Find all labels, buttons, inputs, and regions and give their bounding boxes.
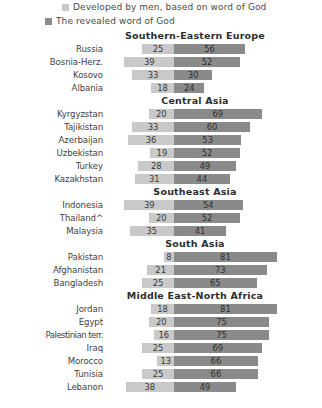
bar-developed-by-men: 28 <box>138 161 174 171</box>
section-header: Central Asia <box>161 95 228 106</box>
country-label: Bangladesh <box>0 277 103 289</box>
bar-developed-by-men: 39 <box>124 57 174 67</box>
bar-revealed-word: 54 <box>174 200 243 210</box>
bar-developed-by-men: 19 <box>150 148 174 158</box>
chart-row: Russia2556 <box>0 43 322 55</box>
bar-value-developed-by-men: 25 <box>142 369 174 379</box>
bar-value-revealed-word: 52 <box>174 213 240 223</box>
bar-revealed-word: 75 <box>174 317 269 327</box>
bar-value-developed-by-men: 20 <box>149 213 174 223</box>
bar-revealed-word: 66 <box>174 369 258 379</box>
country-label: Tajikistan <box>0 121 103 133</box>
bar-value-developed-by-men: 38 <box>126 382 174 392</box>
bar-developed-by-men: 33 <box>132 122 174 132</box>
bar-revealed-word: 24 <box>174 83 204 93</box>
legend-item-revealed-word: The revealed word of God <box>0 14 322 28</box>
bar-revealed-word: 66 <box>174 356 258 366</box>
bar-revealed-word: 44 <box>174 174 230 184</box>
bar-developed-by-men: 20 <box>149 109 174 119</box>
bar-value-developed-by-men: 39 <box>124 200 174 210</box>
bar-value-developed-by-men: 25 <box>142 343 174 353</box>
chart-row: Egypt2075 <box>0 316 322 328</box>
chart-row: Albania1824 <box>0 82 322 94</box>
bar-developed-by-men: 8 <box>164 252 174 262</box>
bar-revealed-word: 52 <box>174 213 240 223</box>
chart-row: Iraq2569 <box>0 342 322 354</box>
bar-revealed-word: 69 <box>174 109 262 119</box>
bar-value-revealed-word: 44 <box>174 174 230 184</box>
bar-value-developed-by-men: 13 <box>157 356 174 366</box>
chart-row: Azerbaijan3653 <box>0 134 322 146</box>
bar-revealed-word: 52 <box>174 57 240 67</box>
chart-row: Bosnia-Herz.3952 <box>0 56 322 68</box>
country-label: Palestinian terr. <box>0 329 103 341</box>
bar-developed-by-men: 35 <box>130 226 174 236</box>
bar-revealed-word: 73 <box>174 265 267 275</box>
bar-developed-by-men: 18 <box>151 83 174 93</box>
bar-value-revealed-word: 69 <box>174 343 262 353</box>
bar-revealed-word: 60 <box>174 122 250 132</box>
bar-value-revealed-word: 52 <box>174 57 240 67</box>
chart-row: Turkey2849 <box>0 160 322 172</box>
bar-developed-by-men: 20 <box>149 317 174 327</box>
bar-developed-by-men: 18 <box>151 304 174 314</box>
country-label: Albania <box>0 82 103 94</box>
legend-label-developed-by-men: Developed by men, based on word of God <box>73 2 266 12</box>
section-header: Southeast Asia <box>153 186 236 197</box>
bar-value-revealed-word: 52 <box>174 148 240 158</box>
legend-swatch-developed-by-men <box>62 4 69 11</box>
bar-value-developed-by-men: 35 <box>130 226 174 236</box>
bar-revealed-word: 65 <box>174 278 257 288</box>
country-label: Kosovo <box>0 69 103 81</box>
bar-value-revealed-word: 69 <box>174 109 262 119</box>
bar-value-revealed-word: 66 <box>174 369 258 379</box>
bar-revealed-word: 49 <box>174 161 236 171</box>
bar-value-revealed-word: 56 <box>174 44 245 54</box>
country-label: Kyrgyzstan <box>0 108 103 120</box>
bar-developed-by-men: 25 <box>142 343 174 353</box>
chart-row: Thailand^2052 <box>0 212 322 224</box>
bar-value-developed-by-men: 33 <box>132 70 174 80</box>
bar-value-developed-by-men: 28 <box>138 161 174 171</box>
bar-developed-by-men: 16 <box>154 330 174 340</box>
chart-row: Kazakhstan3144 <box>0 173 322 185</box>
bar-value-revealed-word: 49 <box>174 161 236 171</box>
bar-developed-by-men: 25 <box>142 278 174 288</box>
bar-value-developed-by-men: 36 <box>128 135 174 145</box>
legend-item-developed-by-men: Developed by men, based on word of God <box>0 0 322 14</box>
section-header: Southern-Eastern Europe <box>125 30 265 41</box>
section-header: South Asia <box>165 238 224 249</box>
chart-legend: Developed by men, based on word of God T… <box>0 0 322 28</box>
bar-revealed-word: 52 <box>174 148 240 158</box>
bar-revealed-word: 81 <box>174 304 277 314</box>
country-label: Iraq <box>0 342 103 354</box>
country-label: Russia <box>0 43 103 55</box>
chart-row: Tajikistan3360 <box>0 121 322 133</box>
country-label: Kazakhstan <box>0 173 103 185</box>
country-label: Morocco <box>0 355 103 367</box>
bar-revealed-word: 75 <box>174 330 269 340</box>
chart-container: Developed by men, based on word of God T… <box>0 0 322 408</box>
bar-revealed-word: 53 <box>174 135 241 145</box>
bar-value-revealed-word: 24 <box>174 83 204 93</box>
bar-value-developed-by-men: 18 <box>151 83 174 93</box>
chart-row: Afghanistan2173 <box>0 264 322 276</box>
bar-value-revealed-word: 53 <box>174 135 241 145</box>
legend-swatch-revealed-word <box>45 18 52 25</box>
bar-revealed-word: 69 <box>174 343 262 353</box>
bar-developed-by-men: 25 <box>142 44 174 54</box>
bar-value-revealed-word: 49 <box>174 382 236 392</box>
bar-developed-by-men: 39 <box>124 200 174 210</box>
bar-developed-by-men: 33 <box>132 70 174 80</box>
bar-value-revealed-word: 81 <box>174 252 277 262</box>
bar-value-revealed-word: 30 <box>174 70 212 80</box>
chart-row: Kosovo3330 <box>0 69 322 81</box>
chart-row: Pakistan881 <box>0 251 322 263</box>
bar-revealed-word: 49 <box>174 382 236 392</box>
country-label: Pakistan <box>0 251 103 263</box>
bar-developed-by-men: 31 <box>135 174 174 184</box>
bar-value-developed-by-men: 18 <box>151 304 174 314</box>
chart-row: Uzbekistan1952 <box>0 147 322 159</box>
bar-value-developed-by-men: 33 <box>132 122 174 132</box>
chart-row: Kyrgyzstan2069 <box>0 108 322 120</box>
